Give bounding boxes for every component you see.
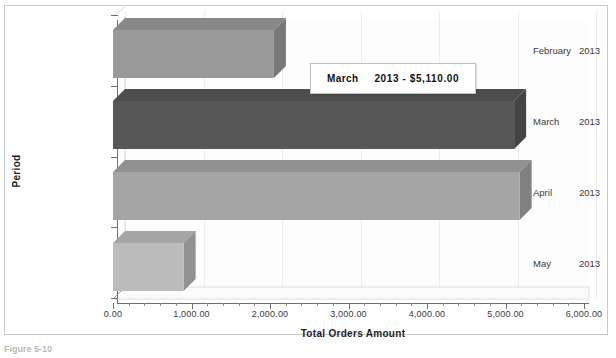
- x-tick-minor: [568, 303, 569, 306]
- x-tick-minor: [396, 303, 397, 306]
- bar-february[interactable]: [113, 30, 274, 78]
- x-tick-minor: [553, 303, 554, 306]
- x-tick-minor: [458, 303, 459, 306]
- tooltip-month: March: [327, 73, 358, 84]
- x-tick-minor: [223, 303, 224, 306]
- bar-april[interactable]: [113, 172, 520, 220]
- x-tick-label: 0.00: [104, 309, 122, 319]
- x-tick-label: 6,000.00: [566, 309, 603, 319]
- bar-front-face: [113, 243, 184, 291]
- x-tick-minor: [176, 303, 177, 306]
- bar-top-face: [113, 160, 532, 172]
- y-tick: [111, 157, 118, 158]
- figure-caption: Figure 5-10: [4, 344, 52, 357]
- x-tick-minor: [364, 303, 365, 306]
- bar-may[interactable]: [113, 243, 184, 291]
- x-tick-label: 3,000.00: [330, 309, 367, 319]
- bar-3d-shape: [113, 160, 534, 222]
- chart-frame: 0.001,000.002,000.003,000.004,000.005,00…: [4, 5, 608, 335]
- gridline-vertical: [439, 12, 440, 298]
- gridline-vertical: [361, 12, 362, 298]
- x-axis-line: [117, 303, 589, 304]
- x-tick-minor: [239, 303, 240, 306]
- y-label-year: 2013: [579, 186, 600, 197]
- bar-front-face: [113, 30, 274, 78]
- y-tick: [111, 298, 118, 299]
- y-label-month: April: [533, 186, 579, 197]
- x-tick-label: 5,000.00: [487, 309, 524, 319]
- y-tick: [111, 15, 118, 16]
- x-tick-minor: [333, 303, 334, 306]
- x-tick-minor: [474, 303, 475, 306]
- x-tick-minor: [254, 303, 255, 306]
- bar-3d-shape: [113, 89, 528, 151]
- chart-screenshot: 0.001,000.002,000.003,000.004,000.005,00…: [0, 0, 616, 358]
- x-tick-minor: [317, 303, 318, 306]
- x-axis-title: Total Orders Amount: [117, 328, 589, 339]
- tooltip-value: 2013 - $5,110.00: [374, 73, 459, 84]
- bar-3d-shape: [113, 231, 198, 293]
- x-tick-minor: [144, 303, 145, 306]
- y-label-year: 2013: [579, 45, 600, 56]
- bar-top-face: [113, 18, 286, 30]
- x-tick-minor: [129, 303, 130, 306]
- x-tick-minor: [443, 303, 444, 306]
- x-tick-minor: [207, 303, 208, 306]
- x-tick-minor: [411, 303, 412, 306]
- y-label-month: March: [533, 116, 579, 127]
- x-tick-minor: [537, 303, 538, 306]
- x-tick-minor: [490, 303, 491, 306]
- x-tick-label: 2,000.00: [252, 309, 289, 319]
- x-tick-minor: [286, 303, 287, 306]
- y-label-month: February: [533, 45, 579, 56]
- y-category-label: May2013: [511, 257, 607, 268]
- bar-march[interactable]: [113, 101, 514, 149]
- x-tick-label: 1,000.00: [173, 309, 210, 319]
- bar-front-face: [113, 101, 514, 149]
- x-tick-label: 4,000.00: [409, 309, 446, 319]
- y-tick: [111, 227, 118, 228]
- bar-3d-shape: [113, 18, 288, 80]
- y-category-label: February2013: [511, 45, 607, 56]
- x-tick-minor: [160, 303, 161, 306]
- data-tooltip[interactable]: March 2013 - $5,110.00: [310, 63, 476, 94]
- x-tick-minor: [301, 303, 302, 306]
- y-label-year: 2013: [579, 116, 600, 127]
- y-label-year: 2013: [579, 257, 600, 268]
- x-tick-minor: [521, 303, 522, 306]
- y-tick: [111, 86, 118, 87]
- x-tick-minor: [380, 303, 381, 306]
- bar-front-face: [113, 172, 520, 220]
- y-label-month: May: [533, 257, 579, 268]
- bar-top-face: [113, 231, 196, 243]
- y-axis-title: Period: [11, 155, 22, 188]
